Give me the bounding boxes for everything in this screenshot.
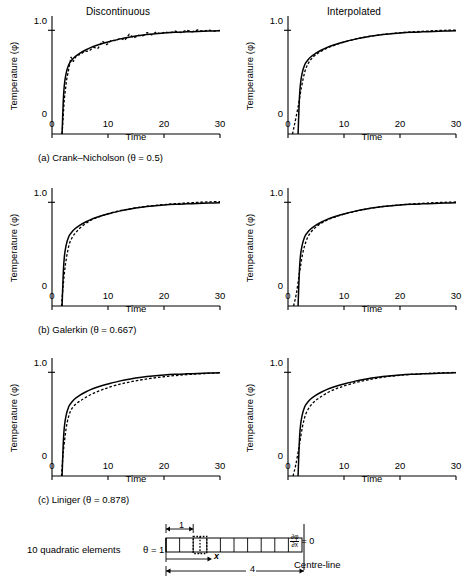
dimension-four-label: 4 bbox=[250, 564, 255, 574]
x-tick-20: 20 bbox=[388, 118, 412, 129]
x-tick-0: 0 bbox=[276, 290, 300, 301]
x-tick-30: 30 bbox=[208, 290, 232, 301]
boundary-condition-label: ∂φ ∂x = 0 bbox=[290, 534, 314, 548]
plot-svg bbox=[52, 22, 220, 134]
panel-a-discontinuous: Discontinuous Temperature (φ) 1.0 0 0 10… bbox=[0, 0, 236, 175]
panel-a-interpolated: Interpolated Temperature (φ) 1.0 0 0 10 … bbox=[236, 0, 472, 175]
x-axis-label: Time bbox=[342, 473, 402, 484]
plot-c-interpolated: Temperature (φ) 1.0 0 0 10 20 30 Time bbox=[288, 364, 456, 476]
figure-root: Discontinuous Temperature (φ) 1.0 0 0 10… bbox=[0, 0, 473, 585]
y-tick-1: 1.0 bbox=[253, 187, 283, 198]
x-tick-10: 10 bbox=[96, 290, 120, 301]
x-axis-label: Time bbox=[342, 131, 402, 142]
plot-svg bbox=[52, 364, 220, 476]
plot-a-discontinuous: Temperature (φ) 1.0 0 0 10 20 30 Time bbox=[52, 22, 220, 134]
quadratic-elements-label: 10 quadratic elements bbox=[27, 544, 120, 555]
figure-row-liniger: Temperature (φ) 1.0 0 0 10 20 30 Time (c… bbox=[0, 342, 473, 517]
x-tick-20: 20 bbox=[388, 460, 412, 471]
centre-line-label: Centre-line bbox=[294, 559, 340, 570]
x-tick-10: 10 bbox=[332, 118, 356, 129]
mesh-schematic-section: 10 quadratic elements θ = 1 1 x 4 ∂φ ∂x … bbox=[0, 512, 473, 585]
x-tick-30: 30 bbox=[444, 118, 468, 129]
x-axis-label: Time bbox=[342, 303, 402, 314]
y-tick-1: 1.0 bbox=[253, 357, 283, 368]
caption-c: (c) Liniger (θ = 0.878) bbox=[38, 494, 129, 505]
partial-derivative-fraction: ∂φ ∂x bbox=[290, 534, 299, 548]
panel-c-interpolated: Temperature (φ) 1.0 0 0 10 20 30 Time bbox=[236, 342, 472, 517]
x-tick-0: 0 bbox=[40, 290, 64, 301]
x-tick-0: 0 bbox=[40, 118, 64, 129]
panel-b-discontinuous: Temperature (φ) 1.0 0 0 10 20 30 Time (b… bbox=[0, 172, 236, 347]
x-tick-0: 0 bbox=[276, 460, 300, 471]
x-tick-0: 0 bbox=[40, 460, 64, 471]
plot-svg bbox=[288, 364, 456, 476]
x-axis-label: Time bbox=[106, 131, 166, 142]
bc-denominator: ∂x bbox=[290, 542, 298, 549]
plot-c-discontinuous: Temperature (φ) 1.0 0 0 10 20 30 Time bbox=[52, 364, 220, 476]
x-tick-20: 20 bbox=[152, 118, 176, 129]
plot-b-discontinuous: Temperature (φ) 1.0 0 0 10 20 30 Time bbox=[52, 194, 220, 306]
x-tick-10: 10 bbox=[332, 290, 356, 301]
y-tick-1: 1.0 bbox=[253, 15, 283, 26]
y-tick-1: 1.0 bbox=[17, 187, 47, 198]
x-tick-10: 10 bbox=[332, 460, 356, 471]
plot-a-interpolated: Temperature (φ) 1.0 0 0 10 20 30 Time bbox=[288, 22, 456, 134]
x-tick-10: 10 bbox=[96, 460, 120, 471]
plot-svg bbox=[288, 22, 456, 134]
x-axis-label: Time bbox=[106, 303, 166, 314]
x-tick-0: 0 bbox=[276, 118, 300, 129]
caption-a: (a) Crank–Nicholson (θ = 0.5) bbox=[38, 152, 163, 163]
caption-b: (b) Galerkin (θ = 0.667) bbox=[38, 324, 136, 335]
x-axis-arrow-label: x bbox=[214, 551, 219, 561]
figure-row-crank-nicholson: Discontinuous Temperature (φ) 1.0 0 0 10… bbox=[0, 0, 473, 175]
panel-b-interpolated: Temperature (φ) 1.0 0 0 10 20 30 Time bbox=[236, 172, 472, 347]
panel-c-discontinuous: Temperature (φ) 1.0 0 0 10 20 30 Time (c… bbox=[0, 342, 236, 517]
figure-row-galerkin: Temperature (φ) 1.0 0 0 10 20 30 Time (b… bbox=[0, 172, 473, 347]
plot-b-interpolated: Temperature (φ) 1.0 0 0 10 20 30 Time bbox=[288, 194, 456, 306]
x-tick-20: 20 bbox=[152, 290, 176, 301]
dimension-one-label: 1 bbox=[179, 520, 184, 530]
x-axis-label: Time bbox=[106, 473, 166, 484]
x-tick-20: 20 bbox=[388, 290, 412, 301]
y-tick-1: 1.0 bbox=[17, 15, 47, 26]
plot-svg bbox=[288, 194, 456, 306]
x-tick-30: 30 bbox=[444, 290, 468, 301]
x-tick-30: 30 bbox=[208, 118, 232, 129]
x-tick-30: 30 bbox=[444, 460, 468, 471]
x-tick-30: 30 bbox=[208, 460, 232, 471]
x-tick-10: 10 bbox=[96, 118, 120, 129]
y-tick-1: 1.0 bbox=[17, 357, 47, 368]
x-tick-20: 20 bbox=[152, 460, 176, 471]
bc-equals-zero: = 0 bbox=[301, 536, 314, 546]
plot-svg bbox=[52, 194, 220, 306]
